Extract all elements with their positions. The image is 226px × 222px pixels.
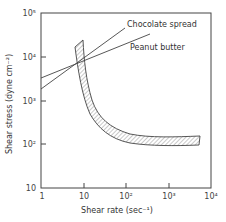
peanut-butter-label: Peanut butter: [130, 43, 186, 52]
x-tick-label: 10: [79, 192, 89, 201]
plot-frame: [41, 13, 211, 188]
x-axis-title: Shear rate (sec⁻¹): [81, 206, 153, 215]
rheology-chart: 1 10 10² 10³ 10⁴ 10 10² 10³ 10⁴ 10⁵ Choc…: [0, 0, 226, 222]
y-tick-label: 10²: [23, 140, 36, 149]
x-tick-label: 10³: [162, 192, 175, 201]
x-ticks: [84, 183, 169, 188]
y-tick-label: 10⁴: [23, 53, 36, 62]
y-axis-title: Shear stress (dyne cm⁻²): [5, 54, 14, 154]
y-tick-label: 10³: [23, 97, 36, 106]
peanut-butter-line: [41, 34, 150, 78]
x-tick-label: 10⁴: [204, 192, 217, 201]
x-tick-label: 10²: [119, 192, 132, 201]
y-tick-label: 10⁵: [23, 9, 36, 18]
chocolate-spread-label: Chocolate spread: [127, 20, 197, 29]
hatched-band: [75, 40, 200, 146]
y-ticks: [41, 57, 46, 144]
y-tick-label: 10: [26, 184, 36, 193]
x-tick-label: 1: [39, 192, 44, 201]
